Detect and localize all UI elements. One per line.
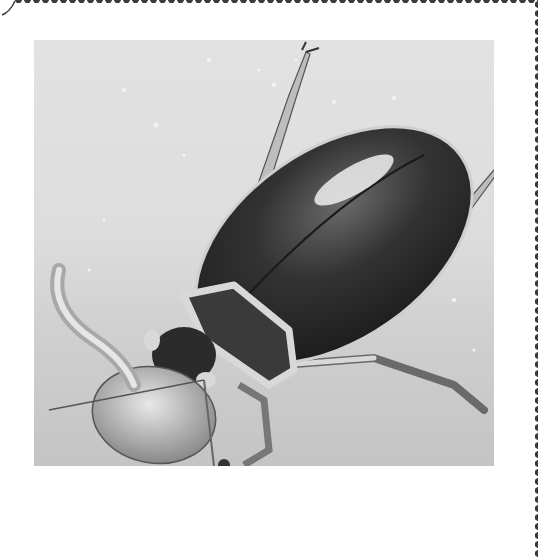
perforation-top [14,0,538,8]
beetle-illustration [34,40,494,466]
corner-curl-decoration [0,0,18,16]
perforation-right [530,0,538,559]
beetle-drawing [34,40,494,466]
